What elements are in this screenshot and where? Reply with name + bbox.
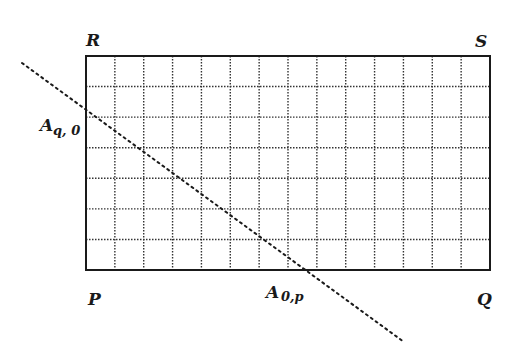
label-r: R: [85, 30, 100, 50]
diagram-canvas: R S P Q A q, 0 A 0,p: [0, 0, 520, 356]
label-a-q0-main: A: [38, 115, 53, 135]
label-a-0p-main: A: [264, 282, 279, 302]
grid-lines: [86, 56, 490, 270]
label-p: P: [87, 289, 102, 309]
label-a-0p-sub: 0,p: [281, 289, 304, 304]
label-a-q0-sub: q, 0: [53, 123, 80, 138]
label-s: S: [475, 31, 487, 51]
label-q: Q: [477, 289, 492, 309]
rectangle-border: [86, 56, 490, 270]
label-a-0p: A 0,p: [264, 282, 304, 304]
dotted-diagonal-line: [22, 63, 404, 342]
label-a-q0: A q, 0: [38, 115, 80, 138]
